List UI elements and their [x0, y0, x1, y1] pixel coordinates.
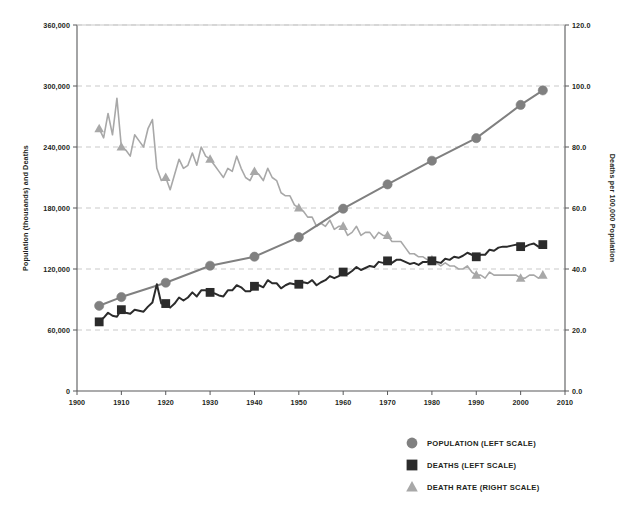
series-line-triangle — [99, 98, 543, 278]
tick-label-bottom: 1980 — [424, 398, 440, 407]
circle-marker — [516, 100, 525, 109]
tick-label-left: 300,000 — [43, 82, 70, 91]
tick-label-bottom: 1960 — [335, 398, 351, 407]
circle-marker — [95, 301, 104, 310]
square-marker — [95, 317, 104, 326]
chart-canvas: 060,000120,000180,000240,000300,000360,0… — [0, 0, 632, 515]
chart-figure: 060,000120,000180,000240,000300,000360,0… — [0, 0, 632, 515]
circle-marker — [427, 156, 436, 165]
triangle-marker — [205, 154, 215, 163]
square-marker — [472, 252, 481, 261]
tick-label-left: 240,000 — [43, 143, 70, 152]
tick-label-bottom: 1940 — [246, 398, 262, 407]
tick-label-bottom: 1920 — [158, 398, 174, 407]
figure-title — [40, 0, 400, 7]
tick-label-bottom: 1970 — [379, 398, 395, 407]
tick-label-right: 40.0 — [572, 265, 586, 274]
tick-label-right: 100.0 — [572, 82, 591, 91]
tick-label-left: 0 — [66, 387, 70, 396]
tick-label-right: 60.0 — [572, 204, 586, 213]
triangle-marker — [250, 166, 260, 175]
legend-circle-marker — [407, 438, 418, 449]
tick-label-bottom: 1910 — [113, 398, 129, 407]
tick-label-bottom: 2000 — [512, 398, 528, 407]
circle-marker — [250, 252, 259, 261]
triangle-marker — [117, 142, 127, 151]
circle-marker — [339, 204, 348, 213]
tick-label-bottom: 1950 — [291, 398, 307, 407]
circle-marker — [117, 292, 126, 301]
tick-label-bottom: 2010 — [557, 398, 573, 407]
triangle-marker — [294, 203, 304, 212]
axis-title-left: Population (thousands) and Deaths — [21, 145, 30, 271]
legend-label-1: DEATHS (LEFT SCALE) — [427, 461, 517, 470]
circle-marker — [383, 180, 392, 189]
axis-title-right: Deaths per 100,000 Population — [608, 154, 617, 263]
triangle-marker — [538, 270, 548, 279]
tick-label-right: 120.0 — [572, 21, 591, 30]
square-marker — [161, 299, 170, 308]
tick-label-bottom: 1900 — [69, 398, 85, 407]
tick-label-right: 80.0 — [572, 143, 586, 152]
legend-square-marker — [407, 460, 418, 471]
square-marker — [538, 240, 547, 249]
square-marker — [294, 280, 303, 289]
triangle-marker — [94, 124, 104, 133]
tick-label-left: 360,000 — [43, 21, 70, 30]
tick-label-right: 20.0 — [572, 326, 586, 335]
tick-label-right: 0.0 — [572, 387, 582, 396]
circle-marker — [161, 278, 170, 287]
square-marker — [206, 288, 215, 297]
circle-marker — [205, 261, 214, 270]
square-marker — [428, 256, 437, 265]
legend-triangle-marker — [406, 481, 418, 492]
square-marker — [516, 242, 525, 251]
tick-label-bottom: 1990 — [468, 398, 484, 407]
square-marker — [117, 305, 126, 314]
tick-label-left: 120,000 — [43, 265, 70, 274]
tick-label-left: 60,000 — [47, 326, 70, 335]
circle-marker — [538, 86, 547, 95]
tick-label-left: 180,000 — [43, 204, 70, 213]
legend-label-0: POPULATION (LEFT SCALE) — [427, 439, 536, 448]
triangle-marker — [161, 173, 171, 182]
circle-marker — [472, 134, 481, 143]
legend-label-2: DEATH RATE (RIGHT SCALE) — [427, 483, 540, 492]
square-marker — [383, 256, 392, 265]
tick-label-bottom: 1930 — [202, 398, 218, 407]
circle-marker — [294, 233, 303, 242]
square-marker — [339, 268, 348, 277]
square-marker — [250, 282, 259, 291]
